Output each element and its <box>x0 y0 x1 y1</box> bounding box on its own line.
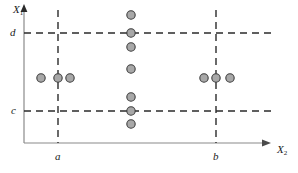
data-point <box>212 74 220 82</box>
data-point <box>37 74 45 82</box>
data-point <box>54 74 62 82</box>
x-tick-label-a: a <box>55 151 61 162</box>
data-point <box>127 29 135 37</box>
x-tick-label-b: b <box>213 151 219 162</box>
x-axis-title: X2 <box>277 144 287 157</box>
data-point <box>127 65 135 73</box>
x-axis-title-base: X <box>277 143 284 155</box>
data-point <box>127 93 135 101</box>
plot-canvas <box>0 0 298 173</box>
x-axis-arrowhead <box>262 139 271 146</box>
data-point <box>127 107 135 115</box>
data-point <box>200 74 208 82</box>
data-point <box>226 74 234 82</box>
data-point <box>66 74 74 82</box>
x-axis-title-subscript: 2 <box>284 149 288 157</box>
y-axis-title-base: X <box>13 3 20 15</box>
data-point <box>127 120 135 128</box>
y-tick-label-c: c <box>11 105 16 116</box>
scatter-plot-figure: X1 X2 d c a b <box>0 0 298 173</box>
y-axis-title: X1 <box>13 4 23 17</box>
data-point <box>127 11 135 19</box>
data-point <box>127 43 135 51</box>
y-axis-title-subscript: 1 <box>20 9 24 17</box>
y-tick-label-d: d <box>10 27 16 38</box>
